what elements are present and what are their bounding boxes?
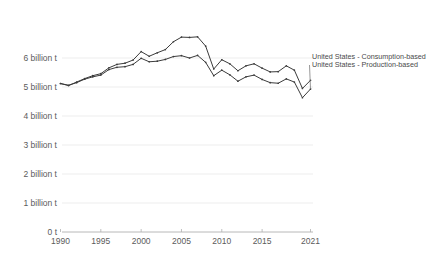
data-point-consumption-based-2019 bbox=[294, 69, 296, 71]
data-point-production-based-2020 bbox=[302, 97, 304, 99]
data-point-consumption-based-2008 bbox=[205, 45, 207, 47]
gridlines bbox=[62, 58, 313, 203]
y-tick-label-2: 2 billion t bbox=[23, 169, 57, 179]
data-point-production-based-2001 bbox=[148, 61, 150, 63]
y-axis-tick-labels: 0 t1 billion t2 billion t3 billion t4 bi… bbox=[23, 53, 57, 237]
data-point-production-based-2004 bbox=[173, 56, 175, 58]
data-point-consumption-based-2002 bbox=[156, 52, 158, 54]
y-tick-label-3: 3 billion t bbox=[23, 140, 57, 150]
data-point-production-based-1997 bbox=[116, 66, 118, 68]
legend-leader-line-production-based bbox=[310, 65, 311, 89]
data-point-consumption-based-2016 bbox=[269, 71, 271, 73]
data-point-production-based-2005 bbox=[181, 55, 183, 57]
x-tick-label-2015: 2015 bbox=[253, 236, 272, 246]
data-point-consumption-based-2020 bbox=[302, 88, 304, 90]
data-point-production-based-2006 bbox=[189, 57, 191, 59]
data-point-consumption-based-2011 bbox=[229, 63, 231, 65]
data-point-production-based-1998 bbox=[124, 66, 126, 68]
y-tick-label-1: 1 billion t bbox=[23, 198, 57, 208]
x-tick-label-2021: 2021 bbox=[301, 236, 320, 246]
y-tick-label-5: 5 billion t bbox=[23, 82, 57, 92]
data-point-production-based-2002 bbox=[156, 60, 158, 62]
data-point-consumption-based-1996 bbox=[108, 67, 110, 69]
data-point-production-based-2003 bbox=[164, 59, 166, 61]
data-point-production-based-2009 bbox=[213, 75, 215, 77]
data-point-consumption-based-2012 bbox=[237, 70, 239, 72]
series-production-based bbox=[60, 55, 312, 99]
data-point-consumption-based-2018 bbox=[285, 65, 287, 67]
data-point-production-based-1994 bbox=[92, 76, 94, 78]
line-consumption-based bbox=[61, 37, 311, 89]
data-point-consumption-based-2017 bbox=[277, 71, 279, 73]
data-point-production-based-2011 bbox=[229, 74, 231, 76]
data-point-consumption-based-2014 bbox=[253, 63, 255, 65]
x-tick-label-1990: 1990 bbox=[51, 236, 70, 246]
data-point-consumption-based-2015 bbox=[261, 67, 263, 69]
data-point-production-based-1992 bbox=[76, 82, 78, 84]
data-point-production-based-1991 bbox=[68, 84, 70, 86]
legend-label-production-based: United States - Production-based bbox=[312, 60, 418, 69]
series-consumption-based bbox=[60, 36, 312, 89]
y-tick-label-6: 6 billion t bbox=[23, 53, 57, 63]
data-point-consumption-based-2001 bbox=[148, 55, 150, 57]
data-point-production-based-1996 bbox=[108, 69, 110, 71]
x-tick-label-1995: 1995 bbox=[91, 236, 110, 246]
data-point-production-based-1993 bbox=[84, 78, 86, 80]
data-point-consumption-based-2009 bbox=[213, 68, 215, 70]
data-point-production-based-2017 bbox=[277, 82, 279, 84]
data-point-consumption-based-2005 bbox=[181, 36, 183, 38]
y-tick-label-4: 4 billion t bbox=[23, 111, 57, 121]
data-point-consumption-based-2006 bbox=[189, 37, 191, 39]
data-point-consumption-based-2004 bbox=[173, 41, 175, 43]
data-point-production-based-2012 bbox=[237, 80, 239, 82]
data-point-consumption-based-1999 bbox=[132, 59, 134, 61]
data-point-consumption-based-2007 bbox=[197, 36, 199, 38]
data-point-production-based-1990 bbox=[60, 83, 62, 85]
x-axis-tick-labels: 1990199520002005201020152021 bbox=[51, 236, 320, 246]
data-point-production-based-2007 bbox=[197, 55, 199, 57]
data-point-production-based-2019 bbox=[294, 81, 296, 83]
data-point-consumption-based-2013 bbox=[245, 65, 247, 67]
chart-container: 0 t1 billion t2 billion t3 billion t4 bi… bbox=[0, 0, 438, 260]
data-point-production-based-2013 bbox=[245, 76, 247, 78]
x-tick-label-2005: 2005 bbox=[172, 236, 191, 246]
data-point-production-based-2016 bbox=[269, 82, 271, 84]
data-point-production-based-1999 bbox=[132, 64, 134, 66]
x-axis bbox=[61, 229, 314, 232]
data-point-consumption-based-1997 bbox=[116, 64, 118, 66]
data-point-consumption-based-2000 bbox=[140, 51, 142, 53]
data-point-production-based-2010 bbox=[221, 69, 223, 71]
data-point-production-based-2018 bbox=[285, 78, 287, 80]
legend: United States - Consumption-basedUnited … bbox=[310, 52, 426, 89]
line-production-based bbox=[61, 55, 311, 97]
data-point-production-based-1995 bbox=[100, 74, 102, 76]
data-point-consumption-based-2003 bbox=[164, 49, 166, 51]
data-point-production-based-2008 bbox=[205, 62, 207, 64]
data-point-production-based-2014 bbox=[253, 74, 255, 76]
x-tick-label-2010: 2010 bbox=[212, 236, 231, 246]
data-point-production-based-2000 bbox=[140, 57, 142, 59]
x-tick-label-2000: 2000 bbox=[132, 236, 151, 246]
co2-emissions-line-chart: 0 t1 billion t2 billion t3 billion t4 bi… bbox=[0, 0, 438, 260]
data-point-consumption-based-2010 bbox=[221, 59, 223, 61]
data-point-production-based-2015 bbox=[261, 79, 263, 81]
data-point-consumption-based-1998 bbox=[124, 62, 126, 64]
